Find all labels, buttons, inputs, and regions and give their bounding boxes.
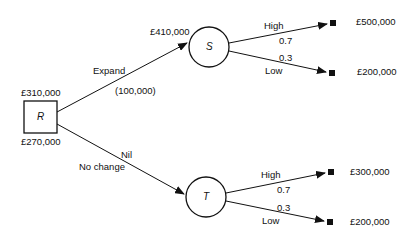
t-node-label: T [203,192,209,202]
t-high-label: High [261,170,281,180]
s-high-probability: 0.7 [279,36,292,46]
t-high-payoff: £300,000 [350,167,390,177]
expand-cost: (100,000) [115,86,156,96]
t-low-payoff: £200,000 [350,217,390,227]
expand-label: Expand [93,66,125,76]
s-low-payoff: £200,000 [357,67,397,77]
no-change-cost: Nil [121,150,132,160]
t-low-label: Low [262,216,279,226]
s-high-terminal [330,20,336,26]
t-high-terminal [328,169,334,175]
s-low-label: Low [265,66,282,76]
t-high-probability: 0.7 [277,185,290,195]
t-low-terminal [327,219,333,225]
s-high-label: High [264,21,284,31]
no-change-label: No change [79,162,125,172]
decision-tree-canvas [0,0,413,245]
s-node-label: S [206,42,213,52]
root-node-label: R [37,112,44,122]
root-value-below: £270,000 [21,137,61,147]
t-low-probability: 0.3 [277,203,290,213]
s-low-terminal [329,70,335,76]
branch-expand [57,43,187,112]
root-value-above: £310,000 [21,88,61,98]
s-low-probability: 0.3 [279,53,292,63]
expand-node-value: £410,000 [150,27,190,37]
s-high-payoff: £500,000 [356,17,396,27]
